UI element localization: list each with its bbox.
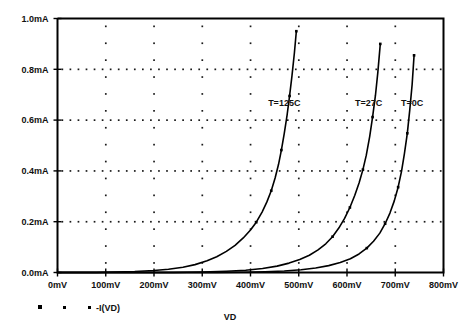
data-point	[255, 221, 258, 224]
curve-t125c	[58, 31, 297, 272]
data-point	[397, 186, 400, 189]
x-tick-label: 100mV	[91, 280, 120, 290]
y-tick-label: 0.4mA	[21, 166, 49, 176]
data-point	[384, 222, 387, 225]
x-tick-label: 500mV	[284, 280, 313, 290]
y-tick-label: 0.6mA	[21, 115, 49, 125]
data-point	[270, 189, 273, 192]
plot-container: 0.0mA0.2mA0.4mA0.6mA0.8mA1.0mA 0mV100mV2…	[0, 0, 463, 330]
legend-marker-2	[63, 306, 66, 309]
annotation-t125c: T=125C	[268, 98, 301, 108]
y-tick-label: 0.2mA	[21, 217, 49, 227]
x-tick-label: 0mV	[48, 280, 67, 290]
data-point	[406, 132, 409, 135]
data-point	[295, 30, 298, 33]
annotation-t0c: T=0C	[401, 98, 424, 108]
curve-t0c	[58, 55, 415, 272]
y-axis-tick-labels: 0.0mA0.2mA0.4mA0.6mA0.8mA1.0mA	[21, 14, 49, 278]
data-point	[280, 149, 283, 152]
x-tick-label: 600mV	[332, 280, 361, 290]
legend: -I(VD)	[38, 303, 120, 313]
x-tick-label: 300mV	[188, 280, 217, 290]
data-point	[371, 116, 374, 119]
curve-group	[58, 31, 415, 272]
diode-iv-chart: 0.0mA0.2mA0.4mA0.6mA0.8mA1.0mA 0mV100mV2…	[0, 0, 463, 330]
data-point	[331, 235, 334, 238]
x-tick-label: 200mV	[139, 280, 168, 290]
data-point	[365, 247, 368, 250]
annotation-t27c: T=27C	[355, 98, 383, 108]
x-axis-title: VD	[224, 312, 237, 322]
x-tick-label: 700mV	[381, 280, 410, 290]
curve-annotations: T=125CT=27CT=0C	[268, 98, 424, 108]
axis-ticks	[54, 19, 444, 277]
data-point	[349, 206, 352, 209]
legend-marker-1	[38, 305, 42, 309]
data-point-markers	[255, 30, 415, 250]
x-tick-label: 800mV	[429, 280, 458, 290]
curve-t27c	[58, 44, 381, 273]
legend-marker-3	[88, 306, 91, 309]
x-axis-tick-labels: 0mV100mV200mV300mV400mV500mV600mV700mV80…	[48, 280, 458, 290]
y-tick-label: 1.0mA	[21, 14, 49, 24]
data-point	[379, 43, 382, 46]
x-tick-label: 400mV	[236, 280, 265, 290]
y-tick-label: 0.8mA	[21, 65, 49, 75]
data-point	[288, 95, 291, 98]
legend-label: -I(VD)	[96, 303, 120, 313]
data-point	[413, 54, 416, 57]
y-tick-label: 0.0mA	[21, 268, 49, 278]
data-point	[362, 168, 365, 171]
